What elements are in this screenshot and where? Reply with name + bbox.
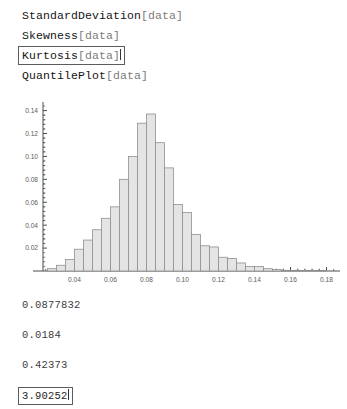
histogram-bar [183,213,192,271]
x-tick-label: 0.08 [140,276,153,283]
y-tick-label: 0.04 [25,222,38,229]
mathematica-notebook: StandardDeviation[data] Skewness[data] K… [0,0,347,409]
histogram-bar [210,247,219,271]
input-argument: [data] [78,29,120,42]
input-cell-2-selected[interactable]: Kurtosis[data] [18,46,125,65]
x-tick-label: 0.04 [68,276,81,283]
y-tick-label: 0.14 [25,107,38,114]
histogram-bar [273,270,282,271]
input-cell-1[interactable]: Skewness[data] [18,26,123,45]
histogram-bar [228,258,237,271]
histogram-bar [282,270,291,271]
histogram-bar [138,123,147,271]
y-axis: 0.020.040.060.080.100.120.14 [25,102,47,271]
histogram-bar [102,218,111,271]
histogram-plot: 0.020.040.060.080.100.120.14 0.040.060.0… [0,92,347,292]
input-argument: [data] [78,49,120,62]
histogram-bar [111,207,120,271]
input-function-name: Skewness [22,29,78,42]
histogram-bar [201,246,210,271]
histogram-bar [57,265,66,271]
output-cell-2[interactable]: 0.42373 [18,357,72,374]
histogram-bar [48,269,57,271]
y-tick-label: 0.08 [25,176,38,183]
histogram-bar [219,257,228,271]
histogram-svg: 0.020.040.060.080.100.120.14 0.040.060.0… [0,92,347,292]
histogram-bar [264,269,273,271]
x-tick-label: 0.06 [104,276,117,283]
text-caret [120,49,121,60]
histogram-bar [300,270,309,271]
input-cell-0[interactable]: StandardDeviation[data] [18,6,186,25]
output-cell-0[interactable]: 0.0877832 [18,297,85,314]
output-cell-1[interactable]: 0.0184 [18,327,65,344]
output-cell-3-selected[interactable]: 3.90252 [18,387,73,405]
output-cell-group: 0.0877832 0.0184 0.42373 3.90252 [18,297,338,409]
histogram-bar [255,266,264,271]
y-tick-label: 0.10 [25,153,38,160]
output-value: 0.0184 [22,329,61,341]
input-function-name: QuantilePlot [22,69,106,82]
x-tick-label: 0.12 [212,276,225,283]
x-tick-label: 0.16 [284,276,297,283]
text-caret [68,389,69,400]
x-tick-label: 0.18 [320,276,333,283]
output-value: 3.90252 [22,390,68,402]
histogram-bar [129,156,138,271]
histogram-bar [309,270,318,271]
histogram-bar [120,179,129,271]
histogram-bar [75,249,84,271]
histogram-bar [291,270,300,271]
input-argument: [data] [141,9,183,22]
histogram-bar [156,143,165,271]
output-value: 0.0877832 [22,299,81,311]
histogram-bar [174,205,183,271]
input-cell-3[interactable]: QuantilePlot[data] [18,66,151,85]
x-tick-label: 0.10 [176,276,189,283]
histogram-bar [237,263,246,271]
histogram-bar [246,266,255,271]
histogram-bar-group [48,114,327,271]
y-tick-label: 0.02 [25,244,38,251]
input-function-name: StandardDeviation [22,9,141,22]
histogram-bar [165,168,174,271]
y-tick-group: 0.020.040.060.080.100.120.14 [25,106,47,266]
output-value: 0.42373 [22,359,68,371]
histogram-bar [93,230,102,271]
input-cell-group: StandardDeviation[data] Skewness[data] K… [18,6,338,86]
y-tick-label: 0.06 [25,199,38,206]
histogram-bar [318,270,327,271]
input-function-name: Kurtosis [22,49,78,62]
y-tick-label: 0.12 [25,130,38,137]
x-tick-label: 0.14 [248,276,261,283]
histogram-bar [66,260,75,271]
input-argument: [data] [106,69,148,82]
histogram-bar [147,114,156,271]
histogram-bar [84,240,93,271]
histogram-bar [192,234,201,271]
